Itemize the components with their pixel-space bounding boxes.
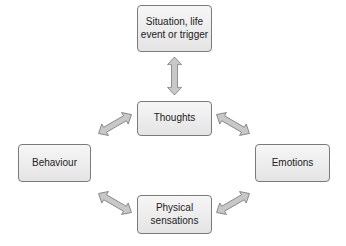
node-label: Physical sensations [147,202,203,227]
arrow-behaviour-physical [95,188,135,219]
node-label: Situation, life event or trigger [138,16,211,41]
node-physical: Physical sensations [137,195,212,234]
arrow-emotions-physical [213,188,253,219]
node-label: Emotions [272,157,314,170]
node-emotions: Emotions [255,144,330,182]
node-behaviour: Behaviour [18,144,91,182]
arrow-thoughts-behaviour [95,109,135,140]
node-trigger: Situation, life event or trigger [137,5,212,52]
arrow-thoughts-emotions [213,109,253,140]
node-label: Behaviour [32,157,77,170]
node-label: Thoughts [154,112,196,125]
node-thoughts: Thoughts [137,101,212,136]
arrow-trigger-thoughts [168,57,182,95]
